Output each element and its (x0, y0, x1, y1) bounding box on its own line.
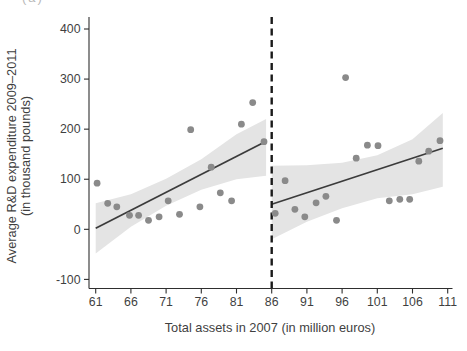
x-tick-label: 61 (89, 295, 103, 309)
data-point (113, 203, 120, 210)
data-point (176, 211, 183, 218)
y-tick-label: 0 (74, 223, 81, 237)
data-point (313, 199, 320, 206)
data-point (156, 213, 163, 220)
data-point (197, 203, 204, 210)
data-point (217, 189, 224, 196)
data-point (261, 138, 268, 145)
data-point (187, 126, 194, 133)
x-tick-label: 111 (438, 295, 457, 309)
data-point (415, 158, 422, 165)
x-tick-label: 106 (402, 295, 423, 309)
data-point (342, 74, 349, 81)
data-point (208, 164, 215, 171)
data-point (364, 142, 371, 149)
confidence-bands (96, 113, 443, 253)
x-tick-label: 91 (300, 295, 314, 309)
data-point (165, 197, 172, 204)
data-point (386, 197, 393, 204)
x-tick-label: 101 (367, 295, 388, 309)
data-point (396, 196, 403, 203)
data-point (282, 177, 289, 184)
x-tick-label: 71 (159, 295, 173, 309)
data-point (437, 137, 444, 144)
data-point (425, 148, 432, 155)
y-tick-label: -100 (56, 273, 81, 287)
data-point (292, 206, 299, 213)
y-axis-title-line2: (in thousand pounds) (18, 96, 33, 216)
data-point (323, 193, 330, 200)
x-axis-title: Total assets in 2007 (in million euros) (165, 320, 376, 335)
data-point (135, 212, 142, 219)
y-axis-title-line1: Average R&D expenditure 2009–2011 (4, 48, 19, 263)
rd-scatter-chart: 4003002001000-10061667176818691961011061… (0, 0, 467, 351)
y-tick-label: 300 (60, 72, 81, 86)
x-tick-label: 96 (335, 295, 349, 309)
data-point (406, 196, 413, 203)
data-point (301, 213, 308, 220)
panel-label: (a) (22, 0, 44, 5)
data-point (228, 197, 235, 204)
x-tick-label: 76 (194, 295, 208, 309)
data-point (272, 210, 279, 217)
x-tick-label: 86 (265, 295, 279, 309)
data-point (94, 180, 101, 187)
x-tick-label: 81 (230, 295, 244, 309)
band-below-cutoff (96, 119, 266, 253)
x-tick-label: 66 (124, 295, 138, 309)
y-tick-label: 100 (60, 172, 81, 186)
data-point (126, 212, 133, 219)
figure-container: (a) 4003002001000-1006166717681869196101… (0, 0, 467, 351)
data-point (145, 217, 152, 224)
data-point (353, 155, 360, 162)
data-point (249, 99, 256, 106)
data-point (104, 200, 111, 207)
y-tick-label: 200 (60, 122, 81, 136)
y-tick-label: 400 (60, 22, 81, 36)
data-point (333, 217, 340, 224)
data-point (238, 121, 245, 128)
data-point (375, 142, 382, 149)
